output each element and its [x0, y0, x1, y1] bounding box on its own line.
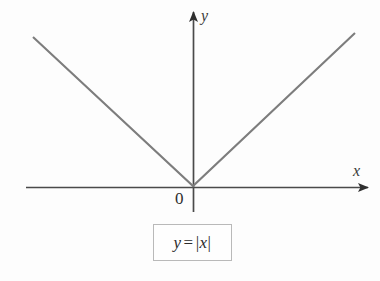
equation-text: y=|x| — [174, 233, 212, 253]
equation-lhs: y — [174, 233, 182, 252]
equation-box: y=|x| — [153, 224, 232, 261]
y-axis-label: y — [201, 8, 208, 24]
equation-abs-close: | — [208, 233, 212, 252]
x-axis-label: x — [353, 163, 360, 179]
equation-rhs: x — [200, 233, 208, 252]
equation-operator: = — [182, 233, 196, 252]
origin-label: 0 — [175, 190, 184, 207]
absolute-value-graph-figure: y x 0 y=|x| — [0, 0, 380, 281]
